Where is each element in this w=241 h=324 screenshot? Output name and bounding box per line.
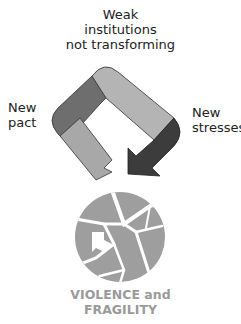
label-line: pact	[8, 115, 36, 130]
label-line: not transforming	[0, 37, 241, 52]
label-line: stresses	[192, 120, 241, 135]
broken-circle-icon	[70, 190, 170, 290]
label-line: New	[8, 100, 36, 115]
label-line: Weak	[0, 7, 241, 22]
label-weak-institutions: Weak institutions not transforming	[0, 7, 241, 52]
label-line: New	[192, 105, 241, 120]
label-line: FRAGILITY	[0, 302, 241, 317]
label-new-stresses: New stresses	[192, 105, 241, 135]
label-new-pact: New pact	[8, 100, 36, 130]
label-line: institutions	[0, 22, 241, 37]
weak-institutions-band	[92, 67, 174, 140]
label-line: VIOLENCE and	[0, 287, 241, 302]
label-violence-fragility: VIOLENCE and FRAGILITY	[0, 287, 241, 317]
